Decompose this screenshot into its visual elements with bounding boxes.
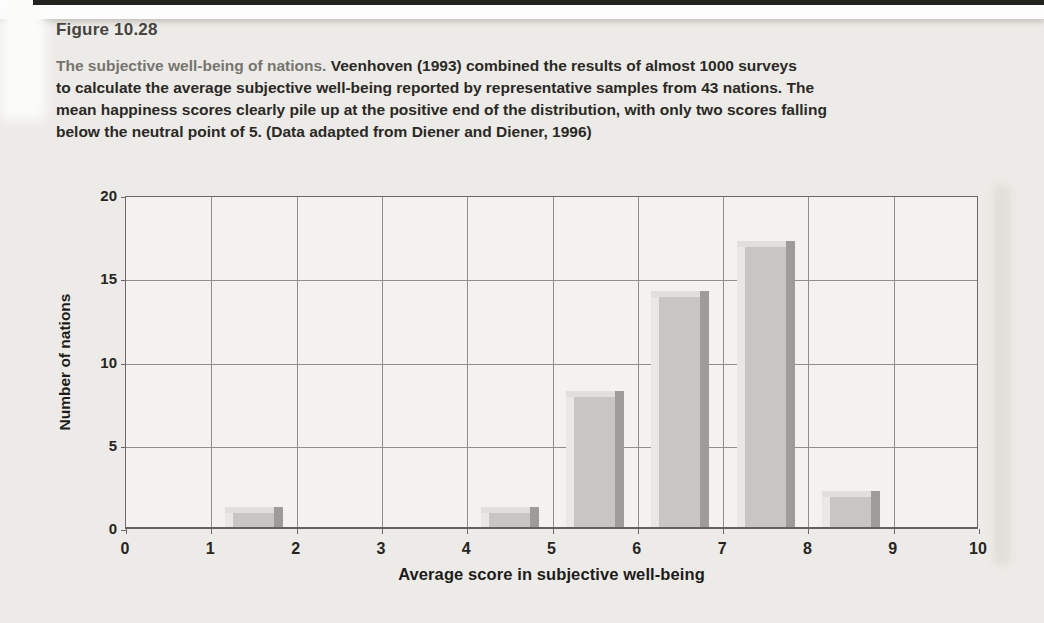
y-tick-label: 5	[80, 437, 117, 454]
y-tick-label: 0	[80, 520, 117, 537]
histogram-bar	[822, 491, 880, 527]
histogram-bar	[481, 507, 539, 527]
x-tick-labels: 012345678910	[125, 537, 978, 559]
x-tick-mark	[553, 529, 554, 534]
histogram-chart: Number of nations 05101520 012345678910 …	[0, 0, 1044, 623]
y-tick-labels: 05101520	[80, 196, 117, 529]
gridline-vertical	[467, 197, 468, 527]
x-tick-mark	[297, 529, 298, 534]
textbook-page: Figure 10.28 The subjective well-being o…	[0, 0, 1044, 623]
x-tick-label: 10	[958, 540, 998, 558]
gridline-vertical	[808, 197, 809, 527]
x-tick-mark	[894, 529, 895, 534]
gridline-vertical	[382, 197, 383, 527]
x-tick-mark	[382, 529, 383, 534]
x-tick-mark	[467, 529, 468, 534]
bar-top-highlight	[737, 241, 786, 247]
bar-top-highlight	[822, 491, 871, 497]
x-tick-label: 8	[787, 540, 827, 558]
y-tick-label: 10	[80, 354, 117, 371]
x-tick-label: 3	[361, 540, 401, 558]
x-tick-label: 1	[190, 540, 230, 558]
y-tick-label: 20	[80, 187, 117, 204]
gridline-vertical	[638, 197, 639, 527]
histogram-bar	[737, 241, 795, 527]
gridline-vertical	[553, 197, 554, 527]
y-tick-mark	[121, 197, 126, 198]
y-tick-mark	[121, 280, 126, 281]
x-tick-mark	[211, 529, 212, 534]
x-tick-mark	[723, 529, 724, 534]
bar-top-highlight	[651, 291, 700, 297]
histogram-bar	[566, 391, 624, 527]
gridline-vertical	[211, 197, 212, 527]
x-tick-label: 5	[532, 540, 572, 558]
y-axis-title: Number of nations	[56, 212, 76, 512]
x-tick-label: 2	[276, 540, 316, 558]
gridline-horizontal	[126, 364, 977, 365]
gridline-vertical	[297, 197, 298, 527]
x-tick-label: 0	[105, 540, 145, 558]
gridline-horizontal	[126, 447, 977, 448]
x-tick-label: 4	[446, 540, 486, 558]
x-tick-mark	[638, 529, 639, 534]
y-tick-mark	[121, 364, 126, 365]
x-tick-mark	[979, 529, 980, 534]
x-axis-title: Average score in subjective well-being	[125, 565, 978, 584]
x-tick-mark	[126, 529, 127, 534]
histogram-bar	[225, 507, 283, 527]
y-tick-mark	[121, 447, 126, 448]
x-tick-label: 6	[617, 540, 657, 558]
x-tick-label: 7	[702, 540, 742, 558]
gridline-horizontal	[126, 280, 977, 281]
x-tick-label: 9	[873, 540, 913, 558]
bar-top-highlight	[225, 507, 274, 513]
bar-top-highlight	[566, 391, 615, 397]
y-tick-label: 15	[80, 270, 117, 287]
bar-top-highlight	[481, 507, 530, 513]
plot-area	[125, 196, 978, 529]
gridline-vertical	[723, 197, 724, 527]
histogram-bar	[651, 291, 709, 527]
x-tick-mark	[808, 529, 809, 534]
gridline-vertical	[894, 197, 895, 527]
